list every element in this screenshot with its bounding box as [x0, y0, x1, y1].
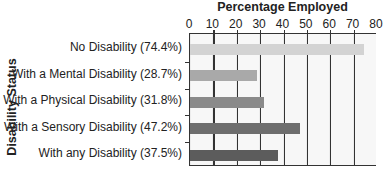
bar — [190, 44, 364, 55]
bar — [190, 123, 300, 134]
category-label: With a Sensory Disability (47.2%) — [4, 120, 182, 134]
x-tick-label: 40 — [276, 17, 289, 31]
category-label: No Disability (74.4%) — [70, 40, 182, 54]
plot-area — [189, 33, 376, 166]
x-tick-label: 10 — [206, 17, 219, 31]
x-tick-label: 0 — [186, 17, 193, 31]
category-label: With a Mental Disability (28.7%) — [12, 67, 182, 81]
category-label: With a Physical Disability (31.8%) — [3, 93, 182, 107]
x-tick-label: 70 — [346, 17, 359, 31]
bar — [190, 150, 278, 161]
x-tick-label: 30 — [252, 17, 265, 31]
chart-title: Percentage Employed — [189, 0, 376, 14]
y-tick — [185, 142, 190, 143]
bar — [190, 70, 257, 81]
y-tick — [185, 89, 190, 90]
x-tick-label: 50 — [299, 17, 312, 31]
x-tick-label: 80 — [369, 17, 382, 31]
y-tick — [185, 62, 190, 63]
bar — [190, 97, 264, 108]
category-label: With any Disability (37.5%) — [39, 146, 182, 160]
y-tick — [185, 115, 190, 116]
x-tick-label: 60 — [323, 17, 336, 31]
x-tick-label: 20 — [229, 17, 242, 31]
